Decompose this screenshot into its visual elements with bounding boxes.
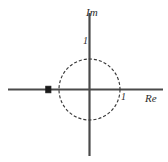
pole-marker bbox=[46, 86, 51, 93]
tick-label-real-1: 1 bbox=[121, 92, 126, 102]
plot-canvas bbox=[0, 0, 168, 162]
imaginary-axis-label: Im bbox=[86, 7, 98, 18]
real-axis-label: Re bbox=[145, 93, 157, 104]
complex-plane-figure: Im Re 1 1 bbox=[0, 0, 168, 162]
tick-label-imag-1: 1 bbox=[83, 36, 88, 46]
